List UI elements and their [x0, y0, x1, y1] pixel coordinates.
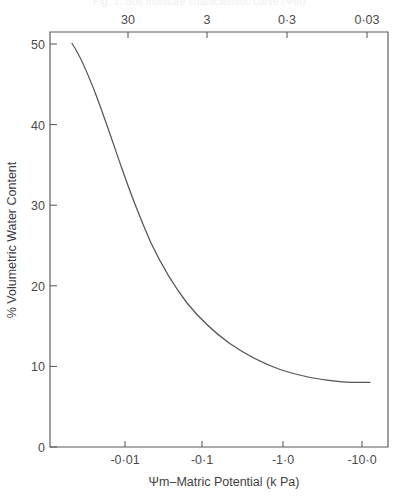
y-tick-label-0: 0: [38, 441, 45, 455]
figure-container: Fig. 1. Soil moisture characteristic cur…: [0, 0, 399, 500]
top-tick-label-0-3: 0·3: [278, 13, 296, 27]
y-tick-label-30: 30: [31, 199, 45, 213]
y-tick-label-20: 20: [31, 280, 45, 294]
y-axis-ticks: [50, 44, 57, 447]
bottom-axis-labels: -0·01 -0·1 -1·0 -10·0: [110, 453, 376, 467]
bottom-tick-label-10-0: -10·0: [347, 453, 376, 467]
bottom-tick-label-0-01: -0·01: [110, 453, 139, 467]
x-axis-title: Ψm–Matric Potential (k Pa): [149, 475, 300, 489]
y-tick-label-40: 40: [31, 119, 45, 133]
y-axis-labels: 0 10 20 30 40 50: [31, 38, 45, 455]
top-axis-ticks: [128, 32, 367, 38]
retention-curve-plot: 30 3 0·3 0·03 -0·01 -0·1 -1·0 -10·0: [0, 0, 399, 500]
top-axis-labels: 30 3 0·3 0·03: [121, 13, 380, 27]
y-axis-title: % Volumetric Water Content: [5, 161, 19, 318]
top-tick-label-0-03: 0·03: [354, 13, 379, 27]
bottom-axis-ticks: [125, 441, 362, 447]
plot-frame: [50, 32, 388, 447]
bottom-tick-label-1-0: -1·0: [272, 453, 294, 467]
y-tick-label-10: 10: [31, 360, 45, 374]
top-tick-label-30: 30: [121, 13, 135, 27]
bottom-tick-label-0-1: -0·1: [191, 453, 213, 467]
water-retention-curve: [72, 44, 370, 383]
y-tick-label-50: 50: [31, 38, 45, 52]
top-tick-label-3: 3: [204, 13, 211, 27]
